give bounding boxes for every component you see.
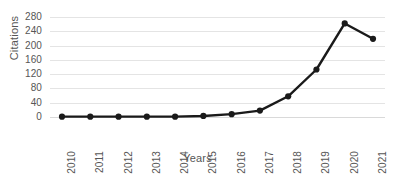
plot-area [50, 17, 385, 117]
y-tick-label: 280 [25, 12, 42, 22]
data-point-marker [257, 107, 263, 113]
data-point-marker [285, 93, 291, 99]
data-point-marker [313, 66, 319, 72]
y-tick-label: 200 [25, 41, 42, 51]
y-tick-label: 240 [25, 26, 42, 36]
y-tick-label: 120 [25, 69, 42, 79]
x-axis-title: Years [0, 152, 395, 164]
series-line [62, 23, 373, 116]
data-point-marker [229, 111, 235, 117]
data-point-marker [370, 36, 376, 42]
y-tick-label: 80 [31, 83, 42, 93]
citations-by-year-line-chart: Citations 04080120160200240280 ≤20102011… [0, 0, 395, 174]
y-axis-tick-labels: 04080120160200240280 [0, 17, 46, 117]
series-citations [50, 17, 385, 117]
y-tick-label: 0 [36, 112, 42, 122]
y-tick-label: 160 [25, 55, 42, 65]
x-axis-tick-labels: ≤201020112012201320142015201620172018201… [50, 119, 385, 153]
y-tick-label: 40 [31, 98, 42, 108]
data-point-marker [342, 20, 348, 26]
